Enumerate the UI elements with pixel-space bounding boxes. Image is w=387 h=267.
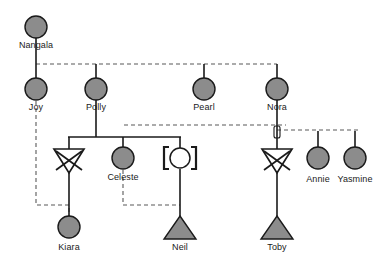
symbol-nora[interactable] (266, 78, 288, 100)
symbol-polly[interactable] (85, 78, 107, 100)
genogram-canvas: Nangala Joy Polly Pearl Nora Celeste Ann… (0, 0, 387, 267)
symbol-neil[interactable] (164, 216, 196, 239)
symbol-nangala[interactable] (25, 16, 47, 38)
symbol-pearl[interactable] (193, 78, 215, 100)
label-kiara: Kiara (58, 242, 80, 252)
label-neil: Neil (172, 242, 188, 252)
symbol-yasmine[interactable] (344, 147, 366, 169)
label-pearl: Pearl (193, 102, 215, 112)
label-polly: Polly (86, 102, 106, 112)
label-toby: Toby (267, 242, 286, 252)
solid-connector-group (36, 38, 355, 218)
label-annie: Annie (306, 174, 330, 184)
symbol-adopted-female[interactable] (164, 147, 196, 169)
genogram-diagram (0, 0, 387, 267)
label-joy: Joy (29, 102, 43, 112)
symbol-pregnancy-loss-right[interactable] (262, 149, 292, 173)
symbol-kiara[interactable] (58, 216, 80, 238)
label-yasmine: Yasmine (337, 174, 372, 184)
label-nangala: Nangala (19, 40, 53, 50)
label-celeste: Celeste (107, 172, 138, 182)
symbol-joy[interactable] (25, 78, 47, 100)
symbol-annie[interactable] (307, 147, 329, 169)
symbol-pregnancy-loss-left[interactable] (54, 149, 84, 173)
label-nora: Nora (267, 102, 287, 112)
symbol-celeste[interactable] (112, 147, 134, 169)
symbol-toby[interactable] (261, 216, 293, 239)
